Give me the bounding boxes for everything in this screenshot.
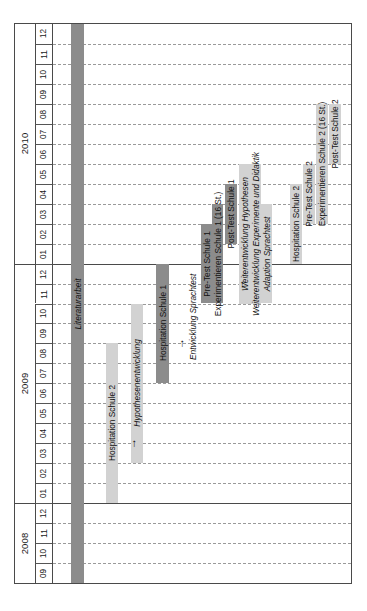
task-label: Entwicklung Sprachtest — [189, 274, 197, 360]
month-label: 01 — [39, 489, 48, 498]
month-label: 07 — [39, 130, 48, 139]
month-label: 11 — [40, 50, 49, 59]
month-label: 11 — [40, 290, 49, 299]
month-label: 03 — [39, 449, 48, 458]
task-bar-label: Hospitation Schule 2 — [292, 186, 300, 262]
task-bar: Post-Test Schule 2 — [329, 104, 341, 164]
month-label: 03 — [39, 210, 48, 219]
gridline — [53, 543, 351, 544]
task-bar-label: Post-Test Schule 2 — [331, 99, 339, 168]
task-bar: Pre-Test Schule 2 — [303, 164, 315, 224]
arrow-icon: → — [235, 279, 246, 290]
year-separator — [53, 503, 351, 504]
year-cell-2009: 2009 — [15, 264, 35, 504]
month-cell-2009-10: 10 — [35, 304, 52, 324]
month-label: 02 — [39, 469, 48, 478]
task-bar-label: Hospitation Schule 1 — [158, 285, 166, 361]
month-cell-2009-04: 04 — [35, 423, 52, 443]
gridline — [53, 343, 351, 344]
month-cell-2009-06: 06 — [35, 383, 52, 403]
month-label: 09 — [39, 329, 48, 338]
month-cell-2008-09: 09 — [35, 563, 52, 583]
task-bar-label: Weiterentwicklung Hypothesen — [240, 177, 248, 291]
month-label: 05 — [39, 409, 48, 418]
month-cell-2008-12: 12 — [35, 503, 52, 523]
month-label: 08 — [39, 349, 48, 358]
month-label: 06 — [39, 150, 48, 159]
task-bar: Weiterentwicklung Experimente und Didakt… — [250, 164, 261, 304]
gridline — [53, 124, 351, 125]
task-bar: Hospitation Schule 1 — [156, 264, 169, 384]
month-cell-2009-11: 11 — [35, 284, 52, 304]
month-cell-2010-12: 12 — [35, 24, 52, 44]
month-cell-2010-05: 05 — [35, 164, 52, 184]
month-label: 08 — [39, 110, 48, 119]
year-cell-2008: 2008 — [15, 503, 35, 583]
month-cell-2010-06: 06 — [35, 144, 52, 164]
gridline — [53, 64, 351, 65]
gridline — [53, 304, 351, 305]
plot-area: LiteraturarbeitHospitation Schule 2Hypot… — [52, 24, 351, 583]
month-cell-2010-03: 03 — [35, 204, 52, 224]
month-cell-2010-10: 10 — [35, 64, 52, 84]
gridline — [53, 84, 351, 85]
month-cell-2010-04: 04 — [35, 184, 52, 204]
month-label: 10 — [39, 309, 48, 318]
gridline — [53, 463, 351, 464]
year-label: 2009 — [20, 373, 31, 395]
task-bar: Adaption Sprachtest — [261, 204, 272, 304]
month-cell-2010-08: 08 — [35, 104, 52, 124]
month-label: 05 — [39, 170, 48, 179]
gridline — [53, 423, 351, 424]
gridline — [53, 403, 351, 404]
arrow-icon: → — [127, 438, 138, 449]
month-cell-2010-02: 02 — [35, 224, 52, 244]
gridline — [53, 104, 351, 105]
gridline — [53, 144, 351, 145]
month-label: 12 — [39, 29, 48, 38]
month-cell-2008-11: 11 — [35, 523, 52, 543]
gridline — [53, 363, 351, 364]
arrow-icon: → — [175, 338, 186, 349]
gridline — [53, 523, 351, 524]
task-bar-label: Experimentieren Schule 2 (16 St.) — [318, 101, 326, 226]
month-cell-2009-09: 09 — [35, 323, 52, 343]
month-label: 04 — [39, 429, 48, 438]
gridline — [53, 483, 351, 484]
gridline — [53, 383, 351, 384]
month-label: 10 — [39, 70, 48, 79]
task-bar: Post-Test Schule 1 — [225, 184, 237, 244]
task-bar-label: Pre-Test Schule 1 — [202, 231, 210, 296]
year-label: 2008 — [20, 533, 31, 555]
month-cell-2010-01: 01 — [35, 244, 52, 264]
month-label: 02 — [39, 230, 48, 239]
gantt-chart: 200820092010 091011120102030405060708091… — [14, 23, 352, 584]
year-label: 2010 — [20, 133, 31, 155]
year-cell-2010: 2010 — [15, 24, 35, 264]
gridline — [53, 563, 351, 564]
task-bar-label: Hypothesenentwicklung — [133, 340, 141, 428]
month-cell-2009-01: 01 — [35, 483, 52, 503]
gridline — [53, 443, 351, 444]
month-cell-2009-02: 02 — [35, 463, 52, 483]
month-cell-2009-08: 08 — [35, 343, 52, 363]
month-label: 10 — [39, 549, 48, 558]
task-bar-label: Weiterentwicklung Experimente und Didakt… — [251, 152, 259, 316]
task-bar-label: Post-Test Schule 1 — [227, 179, 235, 248]
gridline — [53, 44, 351, 45]
month-cell-2009-03: 03 — [35, 443, 52, 463]
task-bar-label: Experimentieren Schule 1 (16 St.) — [213, 191, 221, 316]
month-cell-2010-07: 07 — [35, 124, 52, 144]
month-label: 11 — [40, 529, 49, 538]
task-bar: Experimentieren Schule 2 (16 St.) — [316, 104, 328, 224]
month-label: 09 — [39, 569, 48, 578]
task-bar-label: Pre-Test Schule 2 — [305, 161, 313, 226]
month-label: 01 — [39, 250, 48, 259]
task-bar: Pre-Test Schule 1 — [201, 224, 212, 304]
month-label: 12 — [39, 509, 48, 518]
month-label: 04 — [39, 190, 48, 199]
task-bar-label: Adaption Sprachtest — [262, 216, 270, 291]
task-bar-label: Literaturarbeit — [73, 278, 81, 329]
task-bar: Literaturarbeit — [71, 24, 84, 583]
month-cell-2008-10: 10 — [35, 543, 52, 563]
